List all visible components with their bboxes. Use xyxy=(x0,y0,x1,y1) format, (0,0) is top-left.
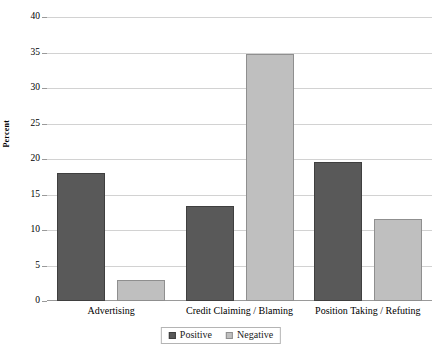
y-axis-tick-label: 20 xyxy=(31,154,41,164)
plot-area: 0510152025303540 xyxy=(47,17,432,301)
y-axis-tick-label: 10 xyxy=(31,225,41,235)
x-axis-tick-label: Advertising xyxy=(88,305,135,316)
legend-swatch-negative xyxy=(226,332,233,339)
bar-positive-2 xyxy=(314,162,362,301)
y-axis-tick-label: 5 xyxy=(35,261,40,271)
legend-item-negative[interactable]: Negative xyxy=(226,330,273,340)
y-axis-title: Percent xyxy=(2,120,16,147)
chart-legend: PositiveNegative xyxy=(161,327,281,344)
y-axis-tick-label: 40 xyxy=(31,12,41,22)
bar-negative-0 xyxy=(117,280,165,301)
y-axis-tick-label: 30 xyxy=(31,83,41,93)
bar-positive-1 xyxy=(186,206,234,301)
y-axis-tick-label: 0 xyxy=(35,296,40,306)
y-axis-tick-label: 35 xyxy=(31,48,41,58)
y-axis-tick-label: 25 xyxy=(31,119,41,129)
legend-item-label: Positive xyxy=(180,330,212,340)
bar-chart: Percent 0510152025303540 AdvertisingCred… xyxy=(0,0,442,349)
bar-negative-1 xyxy=(246,54,294,301)
legend-item-label: Negative xyxy=(237,330,273,340)
y-axis-tick-mark xyxy=(42,301,47,302)
x-axis-tick-label: Position Taking / Refuting xyxy=(315,305,421,316)
bar-positive-0 xyxy=(57,173,105,302)
bars-layer xyxy=(47,17,432,301)
legend-swatch-positive xyxy=(169,332,176,339)
bar-negative-2 xyxy=(374,219,422,301)
x-axis-tick-label: Credit Claiming / Blaming xyxy=(186,305,293,316)
legend-item-positive[interactable]: Positive xyxy=(169,330,212,340)
y-axis-tick-label: 15 xyxy=(31,190,41,200)
